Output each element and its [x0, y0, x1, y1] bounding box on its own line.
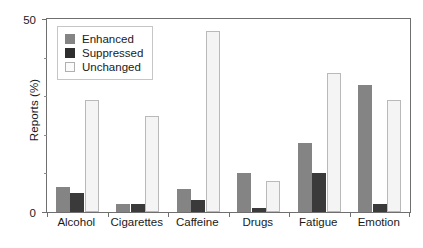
y-tick-label-50: 50 [23, 14, 36, 26]
bar-caffeine-unchanged [206, 31, 220, 212]
bar-cigarettes-enhanced [116, 204, 130, 212]
bar-drugs-unchanged [266, 181, 280, 212]
x-label-alcohol: Alcohol [57, 216, 95, 228]
bar-alcohol-enhanced [56, 187, 70, 212]
x-tick-2 [168, 212, 169, 217]
bar-fatigue-enhanced [298, 143, 312, 212]
x-tick-4 [289, 212, 290, 217]
x-tick-6 [409, 212, 410, 217]
y-tick-minor-30 [44, 96, 48, 97]
x-label-fatigue: Fatigue [299, 216, 337, 228]
bar-caffeine-suppressed [191, 200, 205, 212]
x-label-emotion: Emotion [358, 216, 400, 228]
x-tick-1 [108, 212, 109, 217]
bar-alcohol-suppressed [70, 193, 84, 212]
y-tick-label-0: 0 [30, 207, 36, 219]
x-label-cigarettes: Cigarettes [111, 216, 163, 228]
bar-emotion-enhanced [358, 85, 372, 212]
bar-chart-figure: Reports (%) 0 50 AlcoholCigarettesCaffei… [0, 0, 423, 248]
bar-drugs-enhanced [237, 173, 251, 212]
bar-caffeine-enhanced [177, 189, 191, 212]
legend-swatch-unchanged-icon [65, 62, 75, 72]
legend-swatch-enhanced-icon [65, 34, 75, 44]
legend-item-unchanged: Unchanged [65, 60, 143, 74]
bar-drugs-suppressed [252, 208, 266, 212]
x-label-drugs: Drugs [242, 216, 273, 228]
legend-item-suppressed: Suppressed [65, 46, 143, 60]
legend-label-enhanced: Enhanced [82, 33, 134, 45]
x-tick-5 [350, 212, 351, 217]
y-tick-minor-20 [44, 135, 48, 136]
y-tick-minor-40 [44, 58, 48, 59]
y-axis-title: Reports (%) [28, 30, 40, 190]
chart-legend: EnhancedSuppressedUnchanged [57, 26, 153, 80]
legend-item-enhanced: Enhanced [65, 32, 143, 46]
bar-emotion-unchanged [387, 100, 401, 212]
bar-emotion-suppressed [373, 204, 387, 212]
bar-alcohol-unchanged [85, 100, 99, 212]
y-tick-50: 50 [42, 19, 47, 20]
x-tick-0 [47, 212, 48, 217]
bar-cigarettes-unchanged [145, 116, 159, 213]
bar-cigarettes-suppressed [131, 204, 145, 212]
x-label-caffeine: Caffeine [176, 216, 219, 228]
bar-fatigue-unchanged [327, 73, 341, 212]
x-tick-3 [229, 212, 230, 217]
legend-swatch-suppressed-icon [65, 48, 75, 58]
bar-fatigue-suppressed [312, 173, 326, 212]
legend-label-unchanged: Unchanged [82, 61, 141, 73]
y-tick-minor-10 [44, 173, 48, 174]
legend-label-suppressed: Suppressed [82, 47, 143, 59]
